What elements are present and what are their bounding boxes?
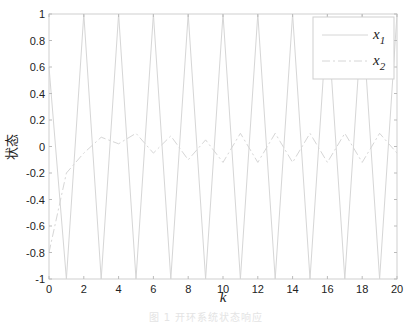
x-tick-label: 16 — [321, 283, 333, 295]
y-tick-label: 0.6 — [30, 61, 45, 73]
x-tick-label: 8 — [185, 283, 191, 295]
x-tick-label: 18 — [356, 283, 368, 295]
x-tick-label: 4 — [116, 283, 122, 295]
legend: x1x2 — [313, 17, 394, 79]
y-tick-label: -1 — [35, 273, 45, 285]
x-tick-label: 6 — [150, 283, 156, 295]
y-tick-label: -0.6 — [26, 220, 45, 232]
y-axis-label: 状态 — [4, 134, 19, 160]
figure-caption: 图 1 开环系统状态响应 — [0, 309, 412, 324]
x-tick-label: 20 — [391, 283, 403, 295]
y-tick-label: 1 — [39, 8, 45, 20]
y-tick-label: -0.2 — [26, 167, 45, 179]
x-tick-label: 12 — [252, 283, 264, 295]
y-tick-label: 0.2 — [30, 114, 45, 126]
x-axis-label: k — [220, 289, 227, 305]
y-tick-label: -0.8 — [26, 247, 45, 259]
line-chart: 02468101214161820-1-0.8-0.6-0.4-0.200.20… — [0, 0, 412, 325]
x-tick-label: 2 — [81, 283, 87, 295]
x-tick-label: 0 — [46, 283, 52, 295]
y-tick-label: -0.4 — [26, 194, 45, 206]
y-tick-label: 0.8 — [30, 35, 45, 47]
x-tick-label: 14 — [286, 283, 298, 295]
y-tick-label: 0 — [39, 141, 45, 153]
y-tick-label: 0.4 — [30, 88, 45, 100]
